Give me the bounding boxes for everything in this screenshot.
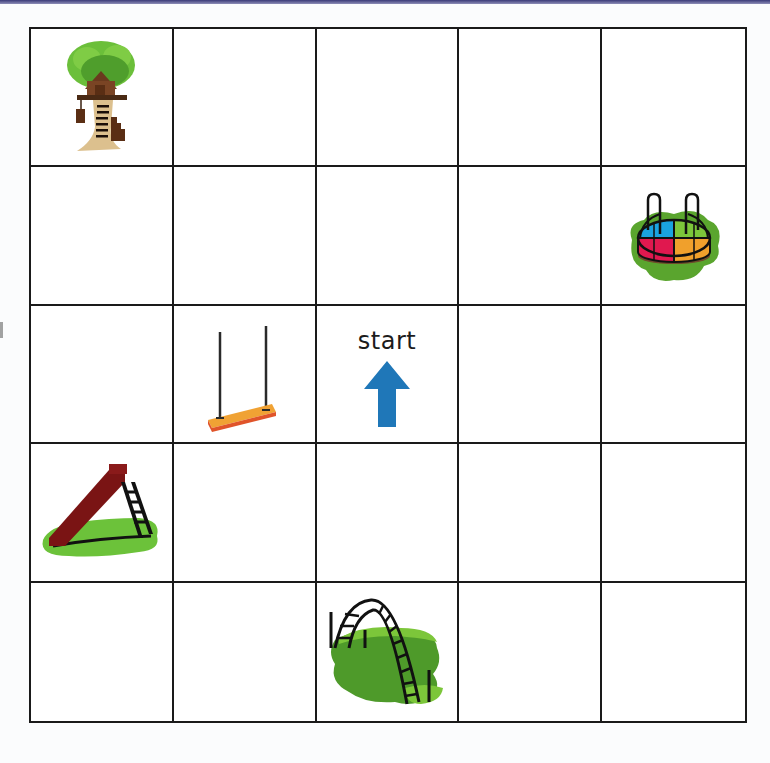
cell-r1-c3[interactable] xyxy=(459,167,602,305)
cell-r1-c4[interactable] xyxy=(602,167,745,305)
cell-r3-c4[interactable] xyxy=(602,444,745,582)
cell-r3-c2[interactable] xyxy=(317,444,460,582)
swing-icon xyxy=(206,324,282,434)
cell-r3-c0[interactable] xyxy=(31,444,174,582)
cell-r0-c4[interactable] xyxy=(602,29,745,167)
cell-r0-c3[interactable] xyxy=(459,29,602,167)
top-edge-band xyxy=(0,0,770,4)
playground-grid: start xyxy=(29,27,747,723)
cell-r0-c1[interactable] xyxy=(174,29,317,167)
cell-r2-c1[interactable] xyxy=(174,306,317,444)
cell-r2-c2[interactable]: start xyxy=(317,306,460,444)
cell-r1-c1[interactable] xyxy=(174,167,317,305)
slide-icon xyxy=(39,460,163,564)
cell-r4-c0[interactable] xyxy=(31,583,174,721)
cell-r4-c4[interactable] xyxy=(602,583,745,721)
monkey-bars-icon xyxy=(325,592,449,712)
arrow-up-icon xyxy=(364,361,410,427)
cell-r4-c3[interactable] xyxy=(459,583,602,721)
cell-r2-c4[interactable] xyxy=(602,306,745,444)
cell-r3-c3[interactable] xyxy=(459,444,602,582)
cell-r3-c1[interactable] xyxy=(174,444,317,582)
cell-r0-c2[interactable] xyxy=(317,29,460,167)
merry-go-round-icon xyxy=(624,184,724,288)
cell-r2-c0[interactable] xyxy=(31,306,174,444)
cell-r2-c3[interactable] xyxy=(459,306,602,444)
cell-r4-c2[interactable] xyxy=(317,583,460,721)
start-marker: start xyxy=(358,327,416,427)
treehouse-icon xyxy=(65,37,137,157)
cell-r1-c2[interactable] xyxy=(317,167,460,305)
start-label: start xyxy=(358,327,416,355)
cell-r0-c0[interactable] xyxy=(31,29,174,167)
cell-r4-c1[interactable] xyxy=(174,583,317,721)
cell-r1-c0[interactable] xyxy=(31,167,174,305)
left-edge-mark xyxy=(0,322,7,338)
